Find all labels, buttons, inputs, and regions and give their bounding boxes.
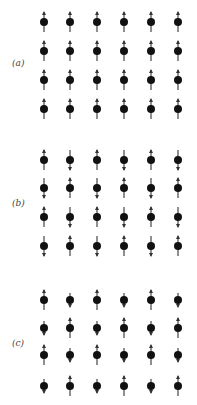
atom-dot [147,18,155,26]
atom-dot [40,156,48,164]
atom-dot [93,105,101,113]
atom-dot [174,47,182,55]
arrow-up-icon [68,317,72,321]
arrow-up-icon [42,149,46,153]
arrow-up-icon [122,11,126,15]
atom-dot [40,351,48,359]
spin-site-up [120,11,128,32]
atom-dot [120,156,128,164]
arrow-up-icon [68,375,72,379]
atom-dot [40,184,48,192]
atom-dot [147,184,155,192]
arrow-up-icon [68,177,72,181]
spin-site-down [66,207,74,228]
spin-site-up [174,40,182,61]
arrow-up-icon [95,289,99,293]
spin-site-up [40,289,48,310]
panel-label: (a) [12,58,25,68]
arrow-up-icon [95,149,99,153]
panel-label: (b) [12,198,25,208]
arrow-up-icon [149,98,153,102]
spin-site-down [147,379,155,394]
atom-dot [40,47,48,55]
atom-dot [40,105,48,113]
spin-site-down [120,348,128,363]
spin-site-up [120,98,128,119]
arrow-up-icon [95,98,99,102]
atom-dot [147,324,155,332]
arrow-down-icon [122,304,126,308]
arrow-up-icon [42,206,46,210]
arrow-up-icon [176,177,180,181]
spin-site-down [66,348,74,363]
spin-site-up [66,11,74,32]
spin-site-up [40,11,48,32]
arrow-down-icon [176,304,180,308]
atom-dot [93,47,101,55]
atom-dot [174,242,182,250]
spin-site-up [66,69,74,90]
arrow-up-icon [68,11,72,15]
spin-site-up [147,344,155,365]
spin-site-up [40,40,48,61]
atom-dot [66,184,74,192]
atom-dot [40,213,48,221]
atom-dot [66,296,74,304]
spin-site-down [120,207,128,228]
spin-site-up [93,69,101,90]
atom-dot [174,105,182,113]
spin-site-up [147,289,155,310]
spin-site-up [147,11,155,32]
atom-dot [40,76,48,84]
spin-site-up [174,235,182,256]
arrow-down-icon [122,359,126,363]
atom-dot [120,18,128,26]
spin-site-up [93,206,101,227]
spin-site-up [93,98,101,119]
spin-site-down [174,348,182,363]
atom-dot [174,382,182,390]
atom-dot [66,105,74,113]
spin-site-down [93,236,101,257]
arrow-down-icon [176,167,180,171]
arrow-up-icon [42,11,46,15]
spin-site-down [174,207,182,228]
atom-dot [147,213,155,221]
arrow-up-icon [122,98,126,102]
spin-site-up [93,344,101,365]
spin-site-down [40,379,48,394]
arrow-up-icon [149,289,153,293]
spin-site-down [66,293,74,308]
spin-site-up [66,235,74,256]
spin-site-up [174,69,182,90]
arrow-up-icon [149,344,153,348]
arrow-up-icon [122,69,126,73]
atom-dot [66,76,74,84]
arrow-up-icon [68,40,72,44]
spin-site-up [66,375,74,396]
panel-a: (a) [12,11,182,119]
atom-dot [147,47,155,55]
spin-site-up [174,98,182,119]
atom-dot [66,351,74,359]
spin-site-down [93,321,101,336]
arrow-up-icon [95,40,99,44]
arrow-up-icon [149,149,153,153]
arrow-down-icon [95,253,99,257]
spin-site-up [120,317,128,338]
atom-dot [40,296,48,304]
atom-dot [93,76,101,84]
arrow-down-icon [122,167,126,171]
atom-dot [120,213,128,221]
arrow-up-icon [42,40,46,44]
arrow-up-icon [95,344,99,348]
spin-site-down [174,150,182,171]
arrow-up-icon [95,11,99,15]
spin-site-up [66,177,74,198]
spin-site-up [66,317,74,338]
spin-site-down [147,178,155,199]
spin-site-up [120,69,128,90]
spin-site-up [120,177,128,198]
arrow-up-icon [42,98,46,102]
spin-site-down [40,236,48,257]
